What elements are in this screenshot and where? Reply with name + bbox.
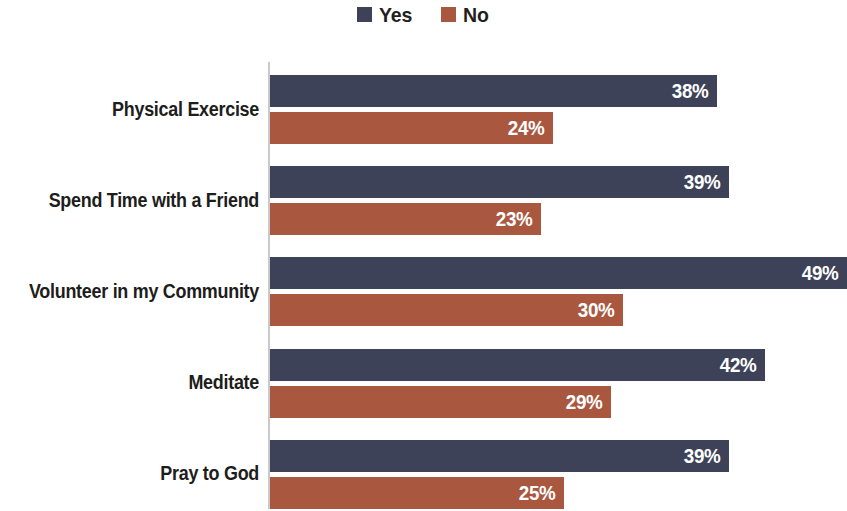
- bar-yes[interactable]: 38%: [270, 75, 717, 107]
- bar-group: Volunteer in my Community49%30%: [0, 257, 847, 326]
- bar-no[interactable]: 29%: [270, 386, 611, 418]
- bar-row: 39%: [270, 440, 847, 472]
- bar-group: Pray to God39%25%: [0, 440, 847, 509]
- bar-row: 39%: [270, 166, 847, 198]
- bar-row: 42%: [270, 349, 847, 381]
- bar-row: 24%: [270, 112, 847, 144]
- bar-yes[interactable]: 39%: [270, 166, 729, 198]
- bar-value-label: 25%: [519, 483, 564, 503]
- bar-no[interactable]: 24%: [270, 112, 553, 144]
- category-label: Volunteer in my Community: [21, 282, 259, 302]
- bar-yes[interactable]: 42%: [270, 349, 765, 381]
- category-label: Pray to God: [21, 464, 259, 484]
- category-label: Spend Time with a Friend: [21, 191, 259, 211]
- category-label: Physical Exercise: [21, 100, 259, 120]
- bar-row: 38%: [270, 75, 847, 107]
- bar-yes[interactable]: 49%: [270, 257, 847, 289]
- bar-group: Meditate42%29%: [0, 349, 847, 418]
- bar-value-label: 39%: [684, 446, 729, 466]
- bar-row: 25%: [270, 477, 847, 509]
- bar-group: Physical Exercise38%24%: [0, 75, 847, 144]
- bar-no[interactable]: 30%: [270, 294, 623, 326]
- bar-yes[interactable]: 39%: [270, 440, 729, 472]
- bar-value-label: 49%: [802, 263, 847, 283]
- bar-no[interactable]: 23%: [270, 203, 541, 235]
- bar-value-label: 24%: [508, 118, 553, 138]
- bar-value-label: 38%: [672, 81, 717, 101]
- bar-row: 49%: [270, 257, 847, 289]
- bar-row: 29%: [270, 386, 847, 418]
- bar-no[interactable]: 25%: [270, 477, 564, 509]
- bar-value-label: 29%: [566, 392, 611, 412]
- bar-group: Spend Time with a Friend39%23%: [0, 166, 847, 235]
- category-label: Meditate: [21, 373, 259, 393]
- bar-value-label: 39%: [684, 172, 729, 192]
- bar-row: 23%: [270, 203, 847, 235]
- bar-value-label: 30%: [578, 300, 623, 320]
- bar-value-label: 23%: [496, 209, 541, 229]
- bar-value-label: 42%: [720, 355, 765, 375]
- chart-plot-area: Physical Exercise38%24%Spend Time with a…: [0, 0, 847, 511]
- bar-row: 30%: [270, 294, 847, 326]
